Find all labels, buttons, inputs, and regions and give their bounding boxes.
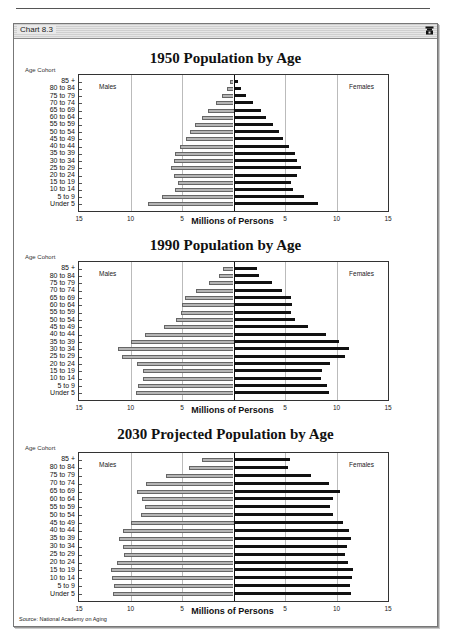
age-cohort-label: 10 to 14	[50, 374, 75, 381]
y-tick	[79, 327, 82, 328]
female-bar	[235, 347, 349, 350]
y-tick	[79, 492, 82, 493]
y-tick	[79, 204, 82, 205]
male-bar	[222, 94, 233, 98]
age-cohort-label: 25 to 29	[50, 352, 75, 359]
x-tick-label: 10	[127, 605, 134, 612]
female-bar	[235, 195, 304, 198]
female-bar	[235, 289, 282, 292]
female-bar	[235, 137, 283, 140]
female-bar	[235, 497, 334, 500]
y-tick	[79, 305, 82, 306]
y-tick	[79, 276, 82, 277]
male-bar	[182, 303, 234, 307]
age-cohort-label: 70 to 74	[50, 479, 75, 486]
x-tick-label: 15	[384, 605, 391, 612]
y-tick	[79, 484, 82, 485]
male-bar	[175, 188, 234, 192]
male-bar	[185, 296, 233, 300]
female-bar	[235, 202, 318, 205]
female-bar	[235, 513, 334, 516]
female-bar	[235, 281, 272, 284]
y-tick	[79, 154, 82, 155]
window-titlebar[interactable]: Chart 8.3	[14, 24, 437, 39]
y-tick	[79, 468, 82, 469]
phone-icon[interactable]	[425, 26, 434, 35]
male-bar	[178, 181, 234, 185]
male-bar	[137, 362, 234, 366]
y-tick	[79, 111, 82, 112]
y-tick	[79, 393, 82, 394]
y-tick	[79, 515, 82, 516]
age-cohort-label: 5 to 9	[57, 193, 75, 200]
y-tick	[79, 313, 82, 314]
x-tick-label: 10	[127, 404, 134, 411]
female-bar	[235, 311, 292, 314]
female-bar	[235, 325, 308, 328]
males-label: Males	[99, 270, 116, 277]
y-tick	[79, 531, 82, 532]
female-bar	[235, 340, 339, 343]
age-cohort-label: 65 to 69	[50, 487, 75, 494]
y-tick	[79, 291, 82, 292]
age-cohort-label: Under 5	[50, 389, 75, 396]
y-axis-title: Age Cohort	[25, 445, 55, 451]
window-title: Chart 8.3	[17, 25, 56, 34]
y-tick	[79, 269, 82, 270]
female-bar	[235, 545, 347, 548]
age-cohort-label: 50 to 54	[50, 128, 75, 135]
male-bar	[190, 130, 233, 134]
age-cohort-label: 20 to 24	[50, 171, 75, 178]
male-bar	[146, 482, 234, 486]
female-bar	[235, 333, 327, 336]
female-bar	[235, 101, 254, 104]
male-bar	[113, 592, 234, 596]
y-tick	[79, 570, 82, 571]
age-cohort-label: Under 5	[50, 590, 75, 597]
y-tick	[79, 371, 82, 372]
age-cohort-label: Under 5	[50, 200, 75, 207]
age-cohort-label: 65 to 69	[50, 106, 75, 113]
y-tick	[79, 349, 82, 350]
age-cohort-label: 5 to 9	[57, 382, 75, 389]
y-tick	[79, 335, 82, 336]
male-bar	[114, 584, 233, 588]
female-bar	[235, 109, 262, 112]
y-tick	[79, 147, 82, 148]
age-cohort-label: 40 to 44	[50, 330, 75, 337]
female-bar	[235, 458, 291, 461]
chart-window: Chart 8.3 1950 Population by AgeAge Coho…	[13, 23, 438, 627]
y-tick	[79, 578, 82, 579]
age-cohort-label: 30 to 34	[50, 542, 75, 549]
male-bar	[136, 391, 234, 395]
y-tick	[79, 507, 82, 508]
y-tick	[79, 594, 82, 595]
y-tick	[79, 499, 82, 500]
x-tick-label: 15	[75, 404, 82, 411]
male-bar	[145, 333, 234, 337]
age-cohort-label: 30 to 34	[50, 345, 75, 352]
female-bar	[235, 377, 322, 380]
male-bar	[122, 355, 233, 359]
y-tick	[79, 379, 82, 380]
age-cohort-label: 45 to 49	[50, 519, 75, 526]
male-bar	[227, 87, 233, 91]
female-bar	[235, 303, 293, 306]
plot-area: MalesFemales	[78, 452, 389, 602]
age-cohort-label: 35 to 39	[50, 149, 75, 156]
y-tick	[79, 460, 82, 461]
age-cohort-label: 40 to 44	[50, 142, 75, 149]
male-bar	[166, 474, 234, 478]
male-bar	[175, 152, 234, 156]
female-bar	[235, 474, 311, 477]
chart-title: 2030 Projected Population by Age	[14, 426, 437, 443]
x-tick-label: 5	[283, 404, 287, 411]
age-cohort-label: 45 to 49	[50, 323, 75, 330]
x-axis-title: Millions of Persons	[191, 405, 274, 415]
males-label: Males	[99, 83, 116, 90]
male-bar	[195, 123, 233, 127]
female-bar	[235, 384, 328, 387]
female-bar	[235, 166, 302, 169]
female-bar	[235, 490, 340, 493]
age-cohort-label: 60 to 64	[50, 495, 75, 502]
